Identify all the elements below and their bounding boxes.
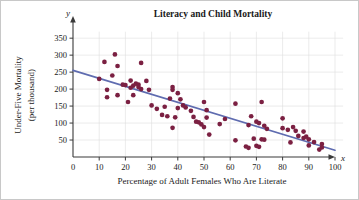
data-point [139, 87, 144, 92]
data-point [154, 106, 159, 111]
x-tick-label: 50 [200, 162, 209, 172]
tick-marks [70, 38, 336, 160]
x-tick-label: 0 [71, 162, 75, 172]
data-point [126, 100, 131, 105]
data-point [262, 137, 267, 142]
data-point [115, 93, 120, 98]
y-tick-label: 250 [54, 67, 67, 77]
data-point [183, 105, 188, 110]
data-point [301, 129, 306, 134]
data-point [162, 104, 167, 109]
data-point [312, 140, 317, 145]
data-point [246, 123, 251, 128]
data-point [217, 122, 222, 127]
data-point [170, 87, 175, 92]
data-point [123, 83, 128, 88]
y-axis-label-line2: (per thousand) [26, 69, 36, 121]
x-tick-label: 10 [95, 162, 104, 172]
data-point [306, 143, 311, 148]
data-point [131, 93, 136, 98]
data-point [178, 97, 183, 102]
data-point [170, 125, 175, 130]
data-point [233, 101, 238, 106]
x-tick-label: 20 [121, 162, 130, 172]
data-point [223, 117, 228, 122]
x-tick-label: 100 [329, 162, 342, 172]
x-axis-label: Percentage of Adult Females Who Are Lite… [118, 176, 287, 186]
x-tick-label: 60 [226, 162, 235, 172]
data-point [249, 114, 254, 119]
data-point [320, 145, 325, 150]
data-point [165, 114, 170, 119]
x-axis-arrow [329, 154, 336, 160]
data-point [285, 127, 290, 132]
data-point [189, 108, 194, 113]
y-tick-label: 100 [54, 118, 67, 128]
y-tick-label: 300 [54, 50, 67, 60]
y-tick-label: 350 [54, 33, 67, 43]
data-point [233, 138, 238, 143]
x-tick-label: 90 [305, 162, 314, 172]
data-point [139, 61, 144, 66]
data-point [251, 136, 256, 141]
data-point [175, 91, 180, 96]
y-tick-label: 150 [54, 101, 67, 111]
data-point [168, 96, 173, 101]
data-point [110, 73, 115, 78]
data-point [102, 60, 107, 65]
data-point [202, 100, 207, 105]
data-point [202, 125, 207, 130]
data-point [191, 115, 196, 120]
x-tick-label: 70 [252, 162, 261, 172]
data-point [296, 134, 301, 139]
x-tick-label: 40 [174, 162, 183, 172]
data-point [265, 126, 270, 131]
data-point [204, 108, 209, 113]
chart-title: Literacy and Child Mortality [154, 9, 273, 19]
data-point [113, 52, 118, 57]
data-point [175, 106, 180, 111]
data-point [149, 103, 154, 108]
x-axis-symbol: x [340, 153, 345, 163]
data-point [147, 87, 152, 92]
data-point [257, 121, 262, 126]
data-point [288, 140, 293, 145]
data-point [115, 64, 120, 69]
data-point [173, 115, 178, 120]
data-point [204, 115, 209, 120]
y-axis-arrow [70, 16, 76, 23]
data-point [144, 79, 149, 84]
x-tick-label: 30 [147, 162, 156, 172]
tick-labels: 0102030405060708090100501001502002503003… [54, 33, 341, 172]
data-point [280, 126, 285, 131]
chart-figure: 0102030405060708090100501001502002503003… [0, 0, 359, 200]
data-point [160, 113, 165, 118]
data-point [246, 145, 251, 150]
data-point [259, 100, 264, 105]
y-tick-label: 200 [54, 84, 67, 94]
data-point [280, 116, 285, 121]
data-point [97, 77, 102, 82]
x-tick-label: 80 [278, 162, 287, 172]
scatter-plot: 0102030405060708090100501001502002503003… [0, 0, 359, 200]
data-point [207, 132, 212, 137]
y-tick-label: 50 [59, 135, 68, 145]
data-point [293, 129, 298, 134]
y-axis-label-line1: Under-Five Mortality [13, 56, 23, 134]
data-point [306, 137, 311, 142]
data-point [105, 87, 110, 92]
data-point [257, 144, 262, 149]
data-point [105, 95, 110, 100]
data-point [128, 78, 133, 83]
y-axis-symbol: y [65, 8, 70, 18]
